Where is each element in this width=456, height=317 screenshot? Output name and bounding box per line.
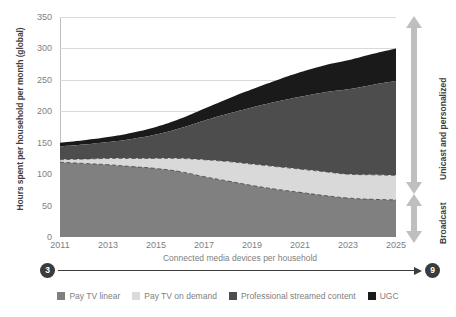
x-tick-label-2013: 2013 (86, 241, 130, 250)
y-tick-label-300: 300 (22, 44, 52, 53)
y-tick-label-350: 350 (22, 13, 52, 22)
legend-swatch-pay-tv-linear (57, 292, 65, 300)
x-tick-label-2015: 2015 (134, 241, 178, 250)
legend-label-ugc: UGC (380, 292, 399, 301)
devices-arrow-line (58, 270, 416, 271)
legend-item-pay-tv-on-demand[interactable]: Pay TV on demand (132, 292, 217, 301)
area-chart: Hours spent per household per month (glo… (0, 0, 456, 317)
y-tick-label-100: 100 (22, 170, 52, 179)
x-tick-label-2011: 2011 (38, 241, 82, 250)
stacked-area-series (60, 17, 396, 237)
x-tick-label-2023: 2023 (326, 241, 370, 250)
devices-start-badge: 3 (40, 263, 55, 278)
connected-devices-annotation: Connected media devices per household 3 … (40, 257, 440, 283)
legend-swatch-pay-tv-on-demand (132, 292, 140, 300)
right-bracket-annotations: Unicast and personalized Broadcast (400, 12, 456, 244)
y-axis-title: Hours spent per household per month (glo… (15, 7, 25, 231)
y-tick-label-150: 150 (22, 139, 52, 148)
legend-item-pay-tv-linear[interactable]: Pay TV linear (57, 292, 120, 301)
plot-area (60, 17, 396, 237)
y-tick-label-50: 50 (22, 202, 52, 211)
legend-item-professional-streamed-content[interactable]: Professional streamed content (229, 292, 356, 301)
connected-devices-label: Connected media devices per household (100, 253, 380, 263)
legend-label-professional-streamed-content: Professional streamed content (241, 292, 356, 301)
chart-legend: Pay TV linear Pay TV on demand Professio… (0, 292, 456, 301)
x-tick-label-2021: 2021 (278, 241, 322, 250)
bracket-label-broadcast: Broadcast (438, 202, 448, 244)
legend-item-ugc[interactable]: UGC (368, 292, 399, 301)
legend-label-pay-tv-linear: Pay TV linear (69, 292, 120, 301)
legend-label-pay-tv-on-demand: Pay TV on demand (144, 292, 217, 301)
bracket-label-unicast: Unicast and personalized (438, 78, 448, 181)
x-tick-label-2019: 2019 (230, 241, 274, 250)
devices-arrow-head-icon (414, 267, 422, 275)
legend-swatch-ugc (368, 292, 376, 300)
legend-swatch-professional-streamed-content (229, 292, 237, 300)
y-tick-label-250: 250 (22, 76, 52, 85)
y-tick-label-200: 200 (22, 107, 52, 116)
devices-end-badge: 9 (425, 263, 440, 278)
x-tick-label-2017: 2017 (182, 241, 226, 250)
